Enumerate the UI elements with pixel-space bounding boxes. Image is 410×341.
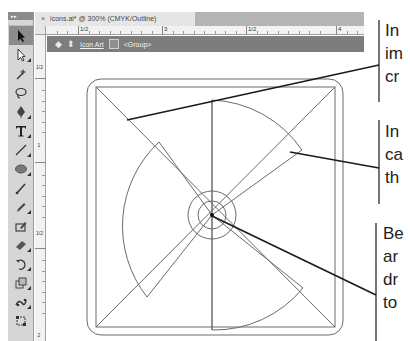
ruler-major-tick — [162, 26, 163, 35]
close-tab-icon[interactable]: × — [41, 15, 45, 22]
scale-tool[interactable] — [9, 273, 33, 292]
puppet-warp-tool[interactable] — [9, 292, 33, 311]
paintbrush-icon — [14, 181, 28, 195]
ruler-label: 1 — [36, 143, 42, 148]
center-point — [210, 213, 214, 217]
free-transform-tool[interactable] — [9, 311, 33, 330]
pen-tool[interactable] — [9, 102, 33, 121]
document-tab[interactable]: ×icons.ai* @ 300% (CMYK/Outline) — [35, 12, 195, 26]
free-transform-icon — [14, 314, 28, 328]
ruler-label: 1/2 — [36, 231, 42, 236]
type-t-icon — [14, 124, 28, 138]
direct-selection-tool[interactable] — [9, 45, 33, 64]
selection-arrow-icon — [14, 29, 28, 43]
tool-flyout-indicator — [27, 172, 31, 176]
paintbrush-tool[interactable] — [9, 178, 33, 197]
tool-flyout-indicator — [27, 58, 31, 62]
document-tab-title: icons.ai* @ 300% (CMYK/Outline) — [50, 15, 156, 22]
ruler-label: 3 — [164, 26, 167, 32]
selection-tool[interactable] — [9, 26, 33, 45]
tools-panel-header[interactable]: ▸▸ — [8, 12, 33, 20]
eraser-icon — [14, 238, 28, 252]
isolation-group-label[interactable]: <Group> — [124, 41, 152, 48]
ruler-label: 1/2 — [80, 26, 88, 32]
artboard-canvas[interactable] — [47, 52, 364, 341]
blob-brush-tool[interactable] — [9, 216, 33, 235]
lasso-icon — [14, 86, 28, 100]
ruler-major-tick — [336, 26, 337, 35]
back-arrow-icon[interactable]: ◆ — [55, 36, 62, 52]
ruler-major-tick — [78, 26, 79, 35]
ruler-origin[interactable] — [35, 26, 46, 35]
tool-flyout-indicator — [27, 153, 31, 157]
icon-artwork-outline[interactable] — [47, 52, 364, 341]
ruler-major-tick — [35, 248, 46, 249]
tools-panel: ▸▸ — [8, 12, 34, 341]
tool-flyout-indicator — [27, 267, 31, 271]
rotate-tool[interactable] — [9, 254, 33, 273]
tool-flyout-indicator — [27, 115, 31, 119]
vertical-ruler[interactable]: 1/2 1 1/2 2 — [35, 35, 46, 341]
document-tab-bar: ×icons.ai* @ 300% (CMYK/Outline) — [35, 12, 364, 26]
pencil-icon — [14, 200, 28, 214]
ruler-major-tick — [246, 26, 247, 35]
rotate-icon — [14, 257, 28, 271]
puppet-warp-icon — [14, 295, 28, 309]
type-tool[interactable] — [9, 121, 33, 140]
pencil-tool[interactable] — [9, 197, 33, 216]
ruler-label: 2 — [36, 333, 42, 338]
ruler-label: 1/2 — [248, 26, 256, 32]
callout-text-2: In ca th — [385, 120, 403, 189]
magic-wand-tool[interactable] — [9, 64, 33, 83]
isolation-layer-link[interactable]: Icon Art — [80, 41, 104, 48]
lasso-tool[interactable] — [9, 83, 33, 102]
ruler-label: 4 — [338, 26, 341, 32]
layers-icon: ⬍ — [67, 36, 75, 52]
horizontal-ruler[interactable]: 1/2 3 1/2 4 — [35, 26, 364, 35]
upper-wedge-path — [212, 100, 302, 215]
isolation-mode-bar: ◆ ⬍ Icon Art <Group> — [47, 36, 364, 52]
callout-text-1: In im cr — [385, 19, 403, 88]
group-icon — [109, 39, 119, 49]
ruler-label: 1/2 — [36, 65, 42, 70]
blob-brush-icon — [14, 219, 28, 233]
ellipse-tool[interactable] — [9, 159, 33, 178]
callout-text-3: Be ar dr to — [383, 222, 404, 314]
tool-flyout-indicator — [27, 134, 31, 138]
lower-wedge-path — [212, 215, 303, 330]
ellipse-icon — [14, 162, 28, 176]
pen-nib-icon — [14, 105, 28, 119]
eraser-tool[interactable] — [9, 235, 33, 254]
direct-selection-arrow-icon — [14, 48, 28, 62]
tool-flyout-indicator — [27, 305, 31, 309]
tool-flyout-indicator — [27, 210, 31, 214]
magic-wand-icon — [14, 67, 28, 81]
tool-flyout-indicator — [27, 286, 31, 290]
ruler-major-tick — [35, 162, 46, 163]
line-segment-tool[interactable] — [9, 140, 33, 159]
line-segment-icon — [14, 143, 28, 157]
tool-flyout-indicator — [27, 248, 31, 252]
ruler-major-tick — [35, 78, 46, 79]
scale-icon — [14, 276, 28, 290]
